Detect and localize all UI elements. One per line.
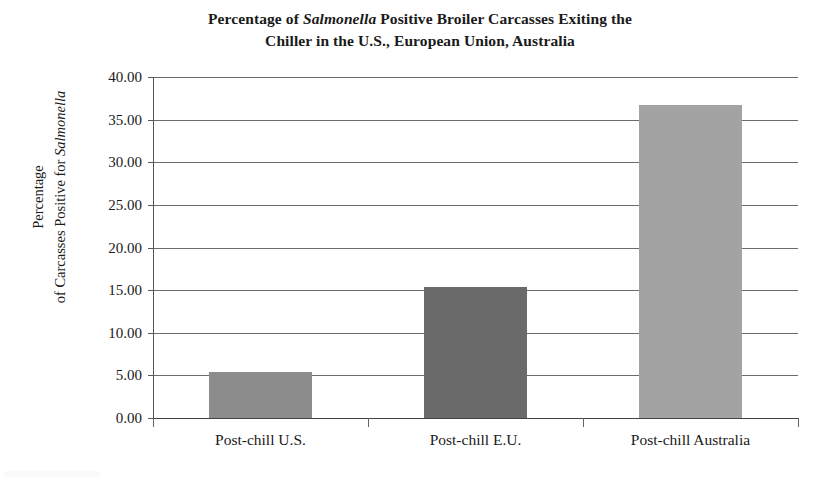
bar-2 xyxy=(424,287,527,418)
y-tick-label: 35.00 xyxy=(76,112,142,127)
y-tick-mark xyxy=(148,77,154,78)
y-tick-label: 5.00 xyxy=(76,368,142,383)
y-tick-label: 0.00 xyxy=(76,411,142,426)
chart-title-line-2: Chiller in the U.S., European Union, Aus… xyxy=(265,32,575,49)
y-tick-label: 25.00 xyxy=(76,197,142,212)
y-tick-mark xyxy=(148,162,154,163)
bar-1 xyxy=(209,372,312,418)
y-gridline xyxy=(153,77,798,78)
title-text-italic: Salmonella xyxy=(303,10,376,27)
y-tick-label: 40.00 xyxy=(76,70,142,85)
y-axis-title-line-2: of Carcasses Positive for Salmonella xyxy=(50,32,72,362)
y-tick-mark xyxy=(148,120,154,121)
y-tick-label: 20.00 xyxy=(76,240,142,255)
y-tick-label: 15.00 xyxy=(76,283,142,298)
x-axis-label-2: Post-chill E.U. xyxy=(368,431,583,450)
x-axis-label-3: Post-chill Australia xyxy=(583,431,798,450)
y-tick-label: 30.00 xyxy=(76,155,142,170)
y-axis-title-text-pre: of Carcasses Positive for xyxy=(52,156,68,303)
title-text-post: Positive Broiler Carcasses Exiting the xyxy=(376,10,632,27)
x-axis-separator xyxy=(583,418,584,427)
x-axis-separator xyxy=(798,418,799,427)
y-tick-mark xyxy=(148,333,154,334)
x-axis-separator xyxy=(153,418,154,427)
y-axis-title-line-1: Percentage xyxy=(28,32,50,362)
chart-title: Percentage of Salmonella Positive Broile… xyxy=(120,8,720,53)
title-text-pre: Percentage of xyxy=(208,10,303,27)
y-tick-label: 10.00 xyxy=(76,325,142,340)
scan-artifact xyxy=(4,471,100,477)
x-axis-line xyxy=(153,418,798,419)
chart-figure: Percentage of Salmonella Positive Broile… xyxy=(0,0,833,483)
plot-area xyxy=(153,77,798,418)
y-tick-mark xyxy=(148,205,154,206)
chart-title-line-1: Percentage of Salmonella Positive Broile… xyxy=(208,10,632,27)
x-axis-label-1: Post-chill U.S. xyxy=(153,431,368,450)
x-axis-separator xyxy=(368,418,369,427)
y-axis-title-text-italic: Salmonella xyxy=(52,91,68,156)
y-tick-mark xyxy=(148,248,154,249)
bar-3 xyxy=(639,105,742,418)
y-axis-title: Percentage of Carcasses Positive for Sal… xyxy=(28,32,72,362)
y-tick-mark xyxy=(148,375,154,376)
y-tick-mark xyxy=(148,290,154,291)
